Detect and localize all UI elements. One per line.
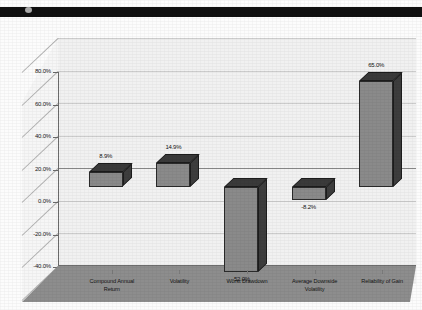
category-label-line: Volatility [275, 286, 355, 294]
bar-column[interactable] [156, 163, 190, 187]
bar-value-label: 65.0% [345, 62, 407, 68]
bar-column[interactable] [89, 172, 123, 186]
category-axis-tick [382, 270, 383, 274]
bar-column[interactable] [224, 187, 258, 272]
screenshot-root: 80.0%60.0%40.0%20.0%0.0%-20.0%-40.0%-60.… [0, 0, 422, 310]
category-axis-tick [315, 270, 316, 274]
bar-column[interactable] [359, 81, 393, 187]
header-band [0, 7, 422, 17]
bar-value-label: -8.2% [278, 204, 340, 210]
y-axis-label: -40.0% [3, 263, 51, 269]
y-axis-label: 0.0% [3, 198, 51, 204]
category-axis-tick [247, 270, 248, 274]
category-axis-tick [112, 270, 113, 274]
category-label-line: Return [72, 286, 152, 294]
bar-chart: 80.0%60.0%40.0%20.0%0.0%-20.0%-40.0%-60.… [0, 20, 422, 310]
category-label-line: Reliability of Gain [342, 278, 422, 286]
y-axis-label: 60.0% [3, 101, 51, 107]
bar-side-face [393, 73, 402, 187]
category-axis-tick [179, 270, 180, 274]
y-axis-tick [53, 235, 58, 236]
y-axis-label: -20.0% [3, 231, 51, 237]
y-axis-tick [53, 170, 58, 171]
y-axis-tick [53, 137, 58, 138]
bar-front-face [156, 163, 190, 187]
bar-front-face [89, 172, 123, 186]
gridline-60.0 [58, 71, 416, 72]
bar-side-face [258, 179, 267, 272]
bar-front-face [292, 187, 326, 200]
y-axis-tick [53, 105, 58, 106]
y-axis-label: 40.0% [3, 133, 51, 139]
bar-column[interactable] [292, 187, 326, 200]
bar-front-face [224, 187, 258, 272]
gridline-80.0 [58, 38, 416, 39]
page-marker-dot [25, 7, 32, 13]
y-axis-tick [53, 72, 58, 73]
y-axis-label: 20.0% [3, 166, 51, 172]
bar-value-label: 8.9% [75, 153, 137, 159]
y-axis-tick [53, 202, 58, 203]
y-axis-label: 80.0% [3, 68, 51, 74]
bar-front-face [359, 81, 393, 187]
category-label: Reliability of Gain [342, 278, 422, 286]
bar-value-label: 14.9% [142, 144, 204, 150]
